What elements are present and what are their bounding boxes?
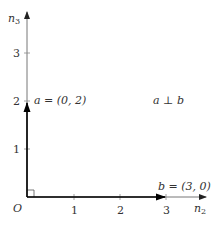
x-tick-label: 1 <box>71 204 78 217</box>
x-tick-label: 3 <box>163 204 170 217</box>
y-tick-label: 3 <box>13 47 20 60</box>
vector-diagram: 1 2 3 1 2 3 O n2 n3 a = (0, 2) b = (3, 0… <box>0 0 217 226</box>
vector-a-label: a = (0, 2) <box>34 94 86 107</box>
x-axis-label: n2 <box>194 202 206 216</box>
perpendicular-annotation: a ⊥ b <box>153 94 184 107</box>
y-tick-label: 1 <box>13 143 20 156</box>
origin-label: O <box>13 202 22 215</box>
y-tick-label: 2 <box>13 95 20 108</box>
right-angle-marker <box>27 190 34 197</box>
vector-b-label: b = (3, 0) <box>158 180 211 193</box>
x-tick-label: 2 <box>117 204 124 217</box>
y-axis-label: n3 <box>8 12 20 26</box>
